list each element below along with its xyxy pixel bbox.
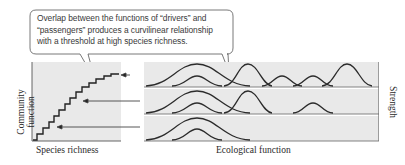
strength-axis-label: Strength: [388, 77, 398, 127]
ylabel-line-1: Community: [16, 82, 26, 142]
callout-text: Overlap between the functions of “driver…: [37, 13, 237, 48]
ylabel-line-2: function: [26, 82, 36, 142]
callout-line-3: with a threshold at high species richnes…: [37, 36, 237, 48]
ecological-function-panel: [144, 62, 379, 141]
species-richness-panel: [32, 62, 121, 141]
species-richness-axis-label: Species richness: [36, 145, 99, 155]
callout-line-2: “passengers” produces a curvilinear rela…: [37, 25, 237, 37]
callout-line-1: Overlap between the functions of “driver…: [37, 13, 237, 25]
ecological-function-axis-label: Ecological function: [216, 145, 291, 155]
community-function-axis-label: Community function: [16, 82, 36, 142]
